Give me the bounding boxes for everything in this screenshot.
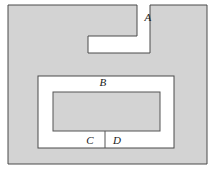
figure-canvas: A B C D — [0, 0, 216, 172]
geometry-diagram — [0, 0, 216, 172]
label-b: B — [100, 77, 107, 88]
label-a: A — [145, 12, 152, 23]
inner-shaded-block — [53, 92, 160, 131]
label-d: D — [113, 135, 121, 146]
label-c: C — [86, 135, 94, 146]
